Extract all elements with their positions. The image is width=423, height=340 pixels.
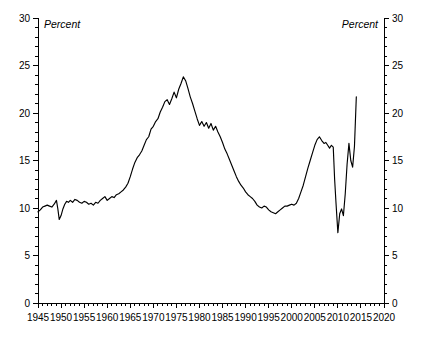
x-tick-label: 1975 bbox=[165, 312, 188, 323]
x-tick-label: 1995 bbox=[258, 312, 281, 323]
y-tick-label-left: 0 bbox=[24, 298, 30, 309]
y-tick-label-right: 5 bbox=[392, 250, 398, 261]
y-tick-label-left: 10 bbox=[19, 203, 31, 214]
x-tick-label: 1960 bbox=[96, 312, 119, 323]
line-chart: 0055101015152020252530301945195019551960… bbox=[0, 0, 423, 340]
x-tick-label: 1970 bbox=[142, 312, 165, 323]
y-tick-label-right: 15 bbox=[392, 155, 404, 166]
x-tick-label: 2015 bbox=[350, 312, 373, 323]
y-tick-label-right: 30 bbox=[392, 13, 404, 24]
y-tick-label-right: 20 bbox=[392, 108, 404, 119]
chart-container: 0055101015152020252530301945195019551960… bbox=[0, 0, 423, 340]
x-tick-label: 1990 bbox=[234, 312, 257, 323]
x-tick-label: 2020 bbox=[373, 312, 396, 323]
chart-tick-labels: 0055101015152020252530301945195019551960… bbox=[19, 13, 404, 323]
y-tick-label-left: 30 bbox=[19, 13, 31, 24]
x-tick-label: 2005 bbox=[304, 312, 327, 323]
x-tick-label: 2010 bbox=[327, 312, 350, 323]
y-tick-label-left: 5 bbox=[24, 250, 30, 261]
y-axis-unit-label-right: Percent bbox=[342, 18, 379, 30]
x-tick-label: 1950 bbox=[50, 312, 73, 323]
y-tick-label-right: 0 bbox=[392, 298, 398, 309]
x-tick-label: 2000 bbox=[281, 312, 304, 323]
y-axis-unit-label-left: Percent bbox=[44, 18, 81, 30]
x-tick-label: 1985 bbox=[211, 312, 234, 323]
series-line-0 bbox=[38, 77, 356, 233]
y-tick-label-right: 25 bbox=[392, 60, 404, 71]
chart-axes bbox=[38, 18, 384, 303]
chart-series bbox=[38, 77, 356, 233]
y-tick-label-left: 15 bbox=[19, 155, 31, 166]
x-tick-label: 1955 bbox=[73, 312, 96, 323]
x-tick-label: 1980 bbox=[188, 312, 211, 323]
x-tick-label: 1965 bbox=[119, 312, 142, 323]
y-tick-label-left: 25 bbox=[19, 60, 31, 71]
y-tick-label-left: 20 bbox=[19, 108, 31, 119]
x-tick-label: 1945 bbox=[27, 312, 50, 323]
chart-ticks bbox=[33, 18, 389, 308]
y-tick-label-right: 10 bbox=[392, 203, 404, 214]
